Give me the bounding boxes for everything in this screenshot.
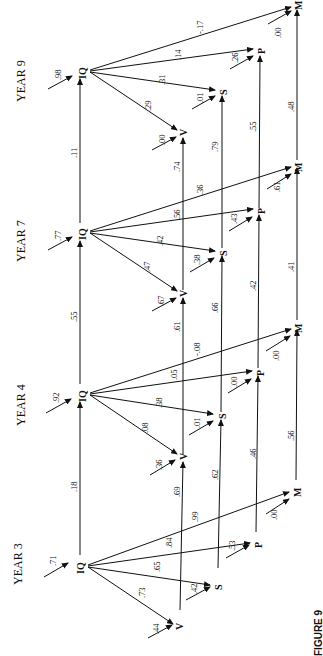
node-p-y7: P [256, 208, 267, 214]
coef-residual-v-y7: .67 [156, 295, 166, 306]
iq-to-m-y9 [90, 7, 291, 70]
node-v-y3: V [174, 622, 185, 630]
coef-iq-residual-y9: .98 [53, 69, 63, 80]
coef-residual-s-y4: .01 [192, 417, 202, 428]
node-s-y7: S [218, 250, 229, 256]
node-iq-y4: IQ [77, 390, 88, 402]
figure-caption: FIGURE 9 [313, 609, 323, 656]
node-p-y9: P [256, 48, 267, 54]
coef-stab-m-y3y4: .56 [286, 430, 296, 441]
node-v-y9: V [178, 128, 189, 136]
coef-residual-m-y4: .00 [271, 350, 281, 361]
coef-residual-s-y3: .42 [189, 583, 199, 594]
coef-stab-m-y7y9: .48 [286, 101, 296, 112]
coef-iq-p-y9: .14 [173, 49, 183, 60]
node-p-y4: P [255, 370, 266, 376]
coef-residual-m-y7: .61 [272, 181, 282, 192]
coef-stab-iq-y7y9: .11 [69, 148, 79, 158]
coef-stab-s-y4y7: .66 [210, 302, 220, 313]
coef-iq-residual-y7: .77 [53, 230, 63, 241]
residual-m-y4 [266, 336, 290, 351]
iq-to-p-y9 [90, 49, 253, 71]
coef-stab-v-y7y9: .74 [172, 161, 182, 172]
coef-residual-v-y3: .44 [151, 623, 161, 634]
s-stability-y4-y7 [221, 256, 222, 412]
year-label-3: YEAR 3 [11, 543, 25, 585]
s-stability-y3-y4 [218, 420, 221, 568]
coef-residual-p-y7: .43 [229, 213, 239, 224]
coef-residual-s-y7: .38 [192, 254, 202, 265]
node-m-y7: M [293, 162, 304, 172]
year-label-7: YEAR 7 [14, 220, 28, 262]
iq-to-s-y4 [90, 395, 213, 414]
iq-to-m-y3 [88, 492, 289, 565]
coef-stab-v-y3y4: .69 [172, 486, 182, 497]
coef-residual-p-y3: .53 [227, 540, 237, 551]
iq-to-s-y9 [90, 72, 215, 90]
coef-stab-iq-y3y4: .18 [69, 481, 79, 492]
p-stability-y7-y9 [259, 56, 260, 208]
node-m-y3: M [292, 487, 303, 497]
node-iq-y7: IQ [77, 228, 88, 240]
iq-to-s-y3 [88, 567, 210, 585]
coef-stab-m-y4y7: .41 [286, 261, 296, 272]
node-m-y4: M [293, 323, 304, 333]
coef-iq-s-y9: .31 [157, 74, 167, 85]
coef-stab-p-y7y9: .55 [248, 121, 258, 132]
coef-iq-p-y4: .05 [169, 369, 179, 380]
coef-iq-p-y7: .56 [172, 209, 182, 220]
coef-residual-m-y9: .00 [273, 27, 283, 38]
p-stability-y4-y7 [258, 215, 259, 368]
node-s-y4: S [217, 413, 228, 419]
year-label-4: YEAR 4 [14, 384, 28, 426]
coef-iq-v-y4: .08 [140, 422, 150, 433]
year-label-9: YEAR 9 [14, 60, 28, 102]
iq-to-v-y3 [88, 567, 173, 624]
coef-iq-residual-y4: .92 [51, 392, 61, 403]
coef-iq-v-y3: .73 [137, 587, 147, 598]
coef-iq-m-y4: -.08 [192, 343, 202, 356]
coef-stab-p-y3y4: .46 [248, 448, 258, 459]
node-s-y3: S [213, 584, 224, 590]
coef-residual-p-y9: .26 [230, 52, 240, 63]
coef-stab-s-y3y4: .62 [210, 469, 220, 480]
v-stability-y3-y4 [180, 462, 183, 610]
coef-iq-m-y3: .99 [190, 511, 200, 522]
node-s-y9: S [218, 89, 229, 95]
coef-iq-p-y3: .84 [164, 537, 174, 548]
iq-to-s-y7 [90, 233, 215, 251]
iq-to-m-y7 [90, 167, 291, 231]
coef-residual-p-y4: .00 [229, 376, 239, 387]
node-m-y9: M [293, 0, 304, 10]
coef-stab-p-y4y7: .42 [248, 280, 258, 291]
coef-iq-v-y7: .47 [142, 261, 152, 272]
coef-stab-v-y4y7: .61 [172, 321, 182, 332]
coef-iq-s-y3: .65 [152, 561, 162, 572]
node-iq-y9: IQ [77, 67, 88, 79]
m-stability-y3-y4 [296, 330, 297, 480]
coef-iq-v-y9: .29 [143, 100, 153, 111]
coef-iq-residual-y3: .71 [48, 555, 58, 566]
iq-to-m-y4 [90, 329, 291, 393]
coef-iq-s-y4: .38 [154, 397, 164, 408]
coef-iq-m-y9: -.17 [195, 21, 205, 34]
node-iq-y3: IQ [75, 562, 86, 574]
coef-residual-v-y9: .00 [157, 134, 167, 145]
coef-residual-m-y3: .00 [269, 509, 279, 520]
node-p-y3: P [253, 542, 264, 548]
coef-stab-iq-y4y7: .55 [69, 311, 79, 322]
node-labels: IQ V S P M IQ V S P M IQ V S P M IQ V S … [75, 0, 304, 630]
path-diagram: YEAR 9 YEAR 7 YEAR 4 YEAR 3 IQ V S P M I… [0, 0, 323, 656]
coef-iq-s-y7: .42 [155, 235, 165, 246]
coef-iq-m-y7: .36 [195, 184, 205, 195]
coef-residual-s-y9: .01 [195, 92, 205, 103]
coef-residual-v-y4: .36 [154, 459, 164, 470]
node-v-y7: V [178, 289, 189, 297]
node-v-y4: V [178, 452, 189, 460]
coef-stab-s-y7y9: .79 [210, 141, 220, 152]
